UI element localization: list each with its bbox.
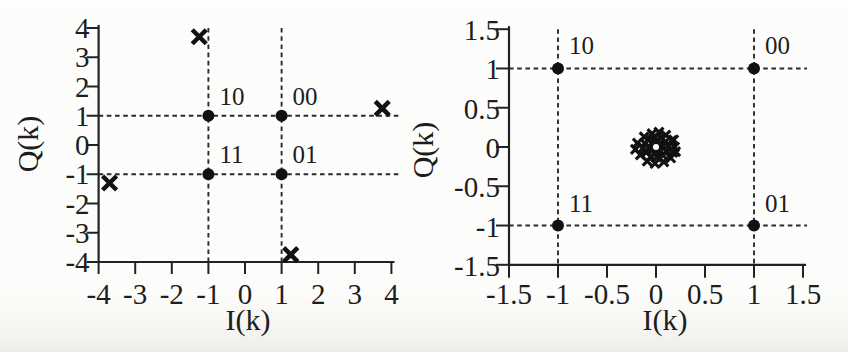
constellation-point — [748, 62, 760, 74]
right-constellation-plot: -1.5-1-0.500.511.51.510.50-0.5-1-1.51000… — [454, 14, 821, 310]
constellation-point — [552, 62, 564, 74]
x-tick-label: 1.5 — [785, 278, 821, 310]
y-tick-label: -1 — [65, 158, 89, 190]
received-symbol-marker — [284, 248, 298, 262]
constellation-point — [748, 220, 760, 232]
x-tick-label: 3 — [348, 278, 363, 310]
y-tick-label: -4 — [65, 246, 90, 278]
x-tick-label: 1 — [747, 278, 762, 310]
left-constellation-plot: -4-3-2-10123443210-1-2-3-410001101 — [65, 12, 400, 310]
y-tick-label: 0 — [75, 129, 90, 161]
qpsk-constellation-figure: -4-3-2-10123443210-1-2-3-410001101 -1.5-… — [0, 0, 848, 352]
x-tick-label: -2 — [160, 278, 184, 310]
constellation-bit-label: 10 — [569, 32, 594, 59]
x-tick-label: -3 — [123, 278, 147, 310]
cluster-center-gap — [653, 144, 659, 150]
y-tick-label: -1 — [476, 211, 500, 243]
y-tick-label: 0 — [486, 132, 501, 164]
constellation-bit-label: 00 — [765, 32, 790, 59]
constellation-bit-label: 11 — [219, 141, 243, 168]
received-symbol-marker — [375, 101, 389, 115]
x-tick-label: -0.5 — [584, 278, 630, 310]
x-tick-label: 1 — [274, 278, 289, 310]
x-tick-label: 0.5 — [687, 278, 723, 310]
constellation-point — [202, 110, 214, 122]
right-x-axis-label: I(k) — [643, 303, 688, 337]
y-tick-label: 3 — [75, 41, 90, 73]
constellation-bit-label: 01 — [765, 190, 790, 217]
x-tick-label: -1 — [196, 278, 220, 310]
received-symbol-marker — [103, 176, 117, 190]
y-tick-label: -2 — [65, 188, 89, 220]
received-symbol-marker — [192, 30, 206, 44]
y-tick-label: 1 — [75, 100, 90, 132]
x-tick-label: 4 — [384, 278, 399, 310]
x-tick-label: -1 — [546, 278, 570, 310]
y-tick-label: 4 — [75, 12, 90, 44]
y-tick-label: -3 — [65, 217, 89, 249]
constellation-bit-label: 11 — [569, 190, 593, 217]
left-x-axis-label: I(k) — [226, 303, 271, 337]
y-tick-label: -0.5 — [454, 171, 500, 203]
constellation-point — [276, 110, 288, 122]
constellation-bit-label: 00 — [293, 83, 318, 110]
y-tick-label: 2 — [75, 71, 90, 103]
constellation-point — [202, 168, 214, 180]
constellation-bit-label: 10 — [219, 83, 244, 110]
noise-cluster-point — [643, 157, 652, 166]
x-tick-label: -4 — [87, 278, 112, 310]
y-tick-label: 1.5 — [464, 14, 500, 46]
constellation-point — [552, 220, 564, 232]
constellation-bit-label: 01 — [293, 141, 318, 168]
right-y-axis-label: Q(k) — [406, 122, 440, 179]
y-tick-label: 1 — [486, 53, 501, 85]
y-tick-label: -1.5 — [454, 250, 500, 282]
left-y-axis-label: Q(k) — [11, 116, 45, 173]
figure-canvas: -4-3-2-10123443210-1-2-3-410001101 -1.5-… — [0, 0, 848, 352]
y-tick-label: 0.5 — [464, 93, 500, 125]
x-tick-label: 2 — [311, 278, 326, 310]
constellation-point — [276, 168, 288, 180]
x-tick-label: -1.5 — [486, 278, 532, 310]
